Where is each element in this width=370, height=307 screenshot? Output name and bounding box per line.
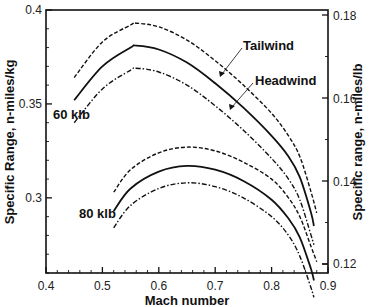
x-tick-3: 0.7 bbox=[207, 279, 224, 293]
y-right-tick-0: 0.12 bbox=[333, 257, 357, 271]
tailwind-label: Tailwind bbox=[243, 38, 294, 53]
x-tick-2: 0.6 bbox=[150, 279, 167, 293]
y-right-tick-3: 0.18 bbox=[333, 9, 357, 23]
y-tick-2: 0.4 bbox=[25, 3, 42, 17]
weight-80-label: 80 klb bbox=[79, 206, 116, 221]
y-tick-0: 0.3 bbox=[25, 191, 42, 205]
curve-80-klb-tailwind bbox=[114, 147, 317, 262]
headwind-label: Headwind bbox=[255, 73, 316, 88]
weight-60-label: 60 klb bbox=[53, 107, 90, 122]
specific-range-chart: 0.4 0.5 0.6 0.7 0.8 0.9 0.3 0.35 0.4 0.1… bbox=[0, 0, 370, 307]
x-tick-4: 0.8 bbox=[263, 279, 280, 293]
y-axis-right-title: Specific range, n-miles/lb bbox=[350, 64, 365, 221]
curves bbox=[74, 23, 317, 298]
y-axis-title: Specific Range, n-miles/kg bbox=[2, 60, 17, 225]
x-tick-0: 0.4 bbox=[38, 279, 55, 293]
tailwind-arrow bbox=[222, 48, 242, 74]
headwind-arrow bbox=[232, 83, 253, 107]
x-tick-5: 0.9 bbox=[320, 279, 337, 293]
x-axis-title: Mach number bbox=[145, 293, 230, 307]
y-tick-1: 0.35 bbox=[19, 97, 43, 111]
x-tick-1: 0.5 bbox=[94, 279, 111, 293]
curve-80-klb-no-wind bbox=[114, 166, 314, 281]
